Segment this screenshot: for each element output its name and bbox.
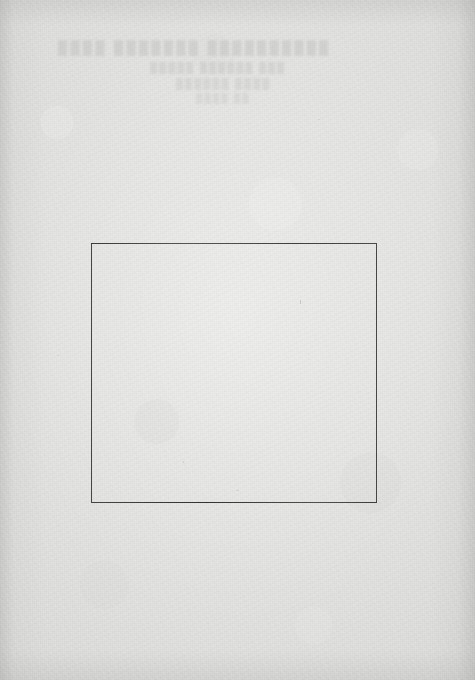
scanned-page: ████ ███████ ██████████ █████ ██████ ███…	[0, 0, 475, 680]
bleed-through-line-4: ████ ██	[196, 93, 251, 103]
paper-speck	[318, 119, 320, 120]
bleed-through-heading: ████ ███████ ██████████	[58, 40, 332, 56]
bleed-through-line-2: █████ ██████ ███	[150, 62, 286, 73]
bleed-through-line-3: ██████ ████	[176, 78, 271, 89]
paper-speck	[57, 355, 59, 356]
figure-frame-rectangle	[91, 243, 377, 503]
